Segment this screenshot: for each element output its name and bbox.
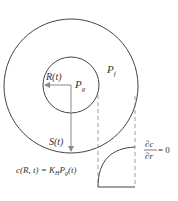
bubble-diagram: R(t) Pg Pf S(t) c(R, t) = KHPg(t) ∂c ∂r … [0, 0, 178, 201]
label-R-t: R(t) [45, 71, 62, 83]
label-S-t: S(t) [49, 136, 64, 148]
concentration-profile-curve [98, 147, 135, 187]
label-Pf: Pf [106, 63, 117, 78]
label-bc-inner: c(R, t) = KHPg(t) [16, 165, 76, 176]
svg-text:∂r: ∂r [145, 151, 153, 161]
label-bc-outer: ∂c ∂r = 0 [144, 139, 170, 161]
svg-text:= 0: = 0 [158, 145, 170, 155]
label-Pg: Pg [74, 78, 86, 93]
svg-text:∂c: ∂c [145, 139, 153, 149]
